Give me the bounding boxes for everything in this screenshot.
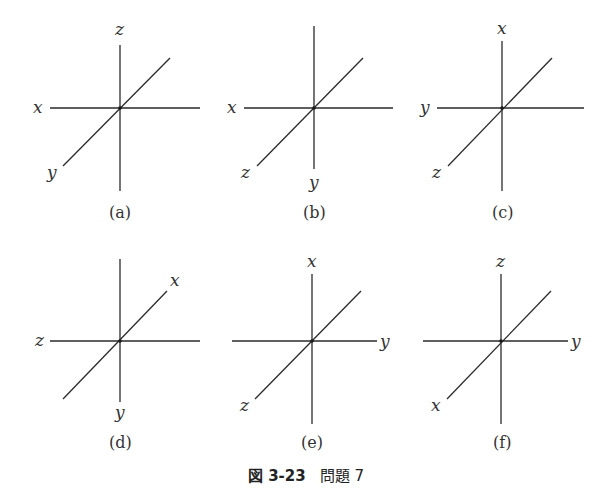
panel-a: z x y (a) [33, 19, 200, 222]
figure-title: 問題 7 [320, 467, 364, 485]
sub-caption: (b) [303, 203, 326, 222]
sub-caption: (c) [492, 203, 513, 222]
axis-label-down: y [308, 172, 319, 192]
diagonal-axis [257, 58, 363, 166]
axis-label-down-left: z [239, 395, 250, 415]
axis-label-down-left: z [431, 162, 442, 182]
axis-label-up: x [307, 251, 317, 271]
diagonal-axis [448, 58, 552, 166]
panel-b: x z y (b) [227, 26, 393, 222]
figure-3-23: z x y (a) x z y (b) x y z (c) z x y (d) [0, 0, 612, 490]
origin-point [118, 339, 122, 343]
axis-label-right: y [379, 331, 390, 351]
sub-caption: (a) [109, 203, 131, 222]
axis-label-up: z [114, 19, 125, 39]
diagonal-axis [255, 291, 361, 399]
sub-caption: (f) [493, 433, 511, 452]
axis-label-left: x [227, 97, 237, 117]
axis-label-down-left: x [431, 395, 441, 415]
figure-number: 図 3-23 [248, 467, 306, 485]
origin-point [312, 106, 316, 110]
diagonal-axis [447, 291, 551, 399]
sub-caption: (e) [301, 433, 323, 452]
axis-label-up: z [495, 251, 506, 271]
sub-caption: (d) [109, 433, 132, 452]
axis-label-down-left: y [46, 162, 57, 182]
origin-point [118, 106, 122, 110]
panel-e: x y z (e) [232, 251, 390, 452]
figure-caption: 図 3-23問題 7 [0, 464, 612, 485]
axis-label-left: z [34, 330, 45, 350]
origin-point [500, 106, 504, 110]
origin-point [499, 339, 503, 343]
axis-label-down: y [114, 402, 125, 422]
origin-point [310, 339, 314, 343]
diagonal-axis [63, 291, 167, 399]
axis-label-up-right: x [170, 270, 180, 290]
diagonal-axis [63, 58, 170, 166]
axis-label-up: x [497, 18, 507, 38]
panel-f: z y x (f) [423, 251, 581, 452]
panel-c: x y z (c) [419, 18, 584, 222]
axis-label-right: y [570, 331, 581, 351]
panel-d: z x y (d) [34, 259, 200, 452]
axis-label-left: y [419, 97, 430, 117]
axis-label-down-left: z [240, 162, 251, 182]
axis-label-left: x [33, 97, 43, 117]
